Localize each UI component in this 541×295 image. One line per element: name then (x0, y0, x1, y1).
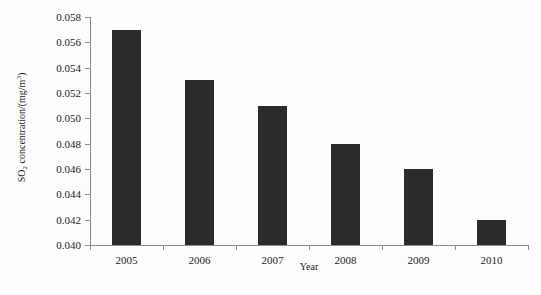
y-axis-title-suffix: ) (16, 73, 27, 76)
y-axis-title-superscript: 3 (15, 76, 23, 80)
bar (404, 169, 433, 245)
y-axis-tick (85, 144, 91, 145)
x-axis-tick (309, 245, 310, 250)
y-axis-tick-label: 0.056 (56, 37, 81, 48)
chart-figure: SO2 concentration/(mg/m3) 0.0400.0420.04… (0, 0, 541, 295)
x-axis-tick (455, 245, 456, 250)
y-axis-title-subscript: 2 (21, 166, 29, 170)
plot-area: 0.0400.0420.0440.0460.0480.0500.0520.054… (90, 17, 528, 245)
bar (185, 80, 214, 245)
y-axis-tick-label: 0.050 (56, 113, 81, 124)
x-axis-tick (236, 245, 237, 250)
x-axis-tick (163, 245, 164, 250)
x-axis-tick (382, 245, 383, 250)
y-axis-tick-label: 0.042 (56, 214, 81, 225)
y-axis-tick-label: 0.054 (56, 62, 81, 73)
y-axis-tick-label: 0.048 (56, 138, 81, 149)
y-axis-tick (85, 17, 91, 18)
y-axis-title-middle: concentration/(mg/m (16, 80, 27, 166)
bar (331, 144, 360, 245)
y-axis-tick-label: 0.044 (56, 189, 81, 200)
y-axis-tick-label: 0.040 (56, 240, 81, 251)
y-axis-tick-label: 0.046 (56, 164, 81, 175)
y-axis-tick (85, 194, 91, 195)
bar (258, 106, 287, 245)
x-axis-tick (528, 245, 529, 250)
y-axis-tick (85, 68, 91, 69)
y-axis-tick (85, 220, 91, 221)
x-axis-title: Year (90, 262, 528, 272)
y-axis-title-prefix: SO (16, 169, 27, 182)
y-axis-tick-label: 0.052 (56, 88, 81, 99)
y-axis-line (90, 17, 91, 245)
y-axis-tick (85, 169, 91, 170)
bar (477, 220, 506, 245)
y-axis-tick (85, 93, 91, 94)
bar (112, 30, 141, 245)
y-axis-tick-label: 0.058 (56, 12, 81, 23)
y-axis-tick (85, 118, 91, 119)
y-axis-tick (85, 42, 91, 43)
y-axis-title: SO2 concentration/(mg/m3) (10, 5, 28, 250)
x-axis-tick (90, 245, 91, 250)
